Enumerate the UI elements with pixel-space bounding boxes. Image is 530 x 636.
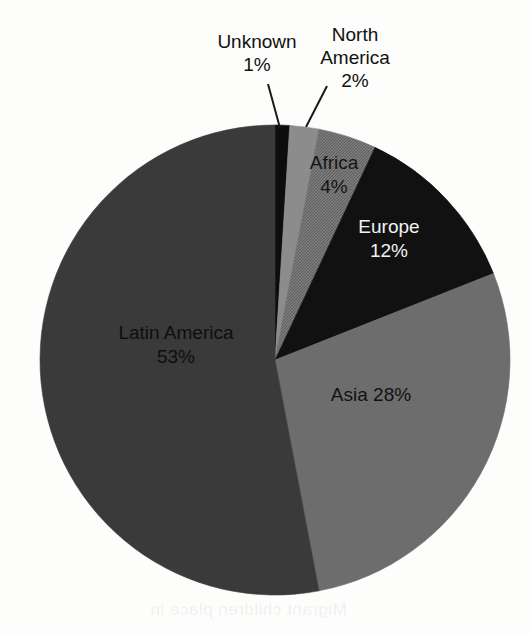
leader-line-north-america xyxy=(306,86,327,127)
pie-chart-figure: Migrant children place in Unknown1%North… xyxy=(0,0,530,636)
pie-slices-group xyxy=(40,125,510,595)
pie-label-asia: Asia 28% xyxy=(331,384,411,405)
pie-label-north-america: NorthAmerica2% xyxy=(320,24,390,91)
pie-label-unknown: Unknown1% xyxy=(217,31,296,75)
pie-chart-svg: Unknown1%NorthAmerica2%Africa4%Europe12%… xyxy=(0,0,530,636)
leader-line-unknown xyxy=(268,84,280,128)
scan-bleed-artifact: Migrant children place in xyxy=(150,600,347,620)
pie-leader-lines-group xyxy=(268,84,327,128)
